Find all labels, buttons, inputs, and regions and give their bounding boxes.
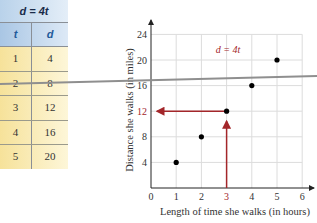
y-tick-label: 4 (142, 157, 147, 168)
x-tick-label: 0 (149, 191, 154, 202)
y-axis-label: Distance she walks (in miles) (124, 48, 136, 172)
y-tick-label: 20 (137, 55, 147, 66)
x-axis-label: Length of time she walks (in hours) (160, 206, 310, 218)
y-tick-label: 16 (137, 80, 147, 91)
data-point (174, 160, 179, 165)
x-tick-label: 5 (275, 191, 280, 202)
overlay-line (0, 76, 317, 84)
x-tick-label: 4 (249, 191, 254, 202)
y-tick-label: 8 (142, 131, 147, 142)
data-point (199, 134, 204, 139)
x-tick-label: 2 (199, 191, 204, 202)
x-tick-label: 3 (224, 191, 229, 202)
x-tick-label: 1 (174, 191, 179, 202)
y-tick-label: 12 (137, 106, 147, 117)
y-tick-label: 24 (137, 29, 147, 40)
data-point (249, 83, 254, 88)
data-point (274, 57, 279, 62)
data-point (224, 109, 229, 114)
equation-annotation: d = 4t (216, 44, 241, 55)
scatter-chart: 01234564812162024Length of time she walk… (0, 0, 317, 223)
x-tick-label: 6 (300, 191, 305, 202)
